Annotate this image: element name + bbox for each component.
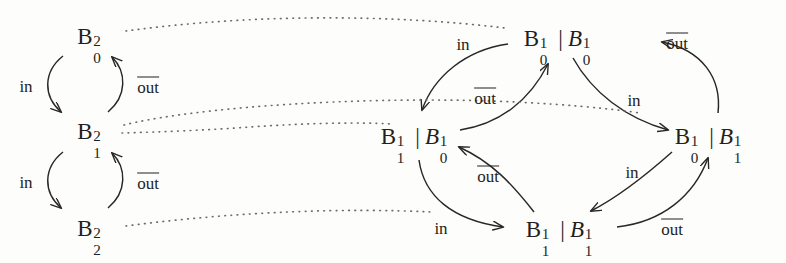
edge-label-top-right-in: in <box>627 92 640 109</box>
node-b12[interactable]: B21 <box>77 120 107 143</box>
connector-b12-right <box>124 100 640 125</box>
edge-label-out-text: out <box>137 173 159 192</box>
connector-b02-top <box>126 18 505 31</box>
connector-b12-left <box>122 123 392 133</box>
node-left-right-base: B <box>425 125 439 148</box>
node-bottom-left-base: B <box>526 218 541 241</box>
node-top[interactable]: B10|B10 <box>524 27 597 50</box>
node-b02-subscript: 0 <box>93 49 101 64</box>
node-left-separator: | <box>415 125 420 148</box>
node-b12-base: B <box>77 120 92 143</box>
node-right-left-superscript: 1 <box>691 133 699 148</box>
node-right-left-base: B <box>675 125 690 148</box>
node-bottom-separator: | <box>560 218 565 241</box>
node-right-right-superscript: 1 <box>734 133 742 148</box>
edge-label-out-text: out <box>137 77 159 96</box>
node-left-right-superscript: 1 <box>440 133 448 148</box>
edge-label-b22-b12-out: out <box>137 173 159 192</box>
edge-b12-b02-out <box>108 57 123 112</box>
edge-b02-b12-in <box>48 56 63 112</box>
edge-label-right-bottom-in: in <box>625 164 638 181</box>
connector-b22-bottom <box>126 210 430 226</box>
edge-right-bottom-in <box>591 152 672 211</box>
node-bottom-left-superscript: 1 <box>542 226 550 241</box>
node-bottom-left-subscript: 1 <box>542 242 550 257</box>
node-top-right-subscript: 0 <box>583 51 591 66</box>
node-b12-subscript: 1 <box>93 144 101 159</box>
edge-label-in-text: in <box>625 163 638 182</box>
edge-label-in-text: in <box>627 91 640 110</box>
edge-label-out-text: out <box>666 33 688 52</box>
edge-label-in-text: in <box>19 173 32 192</box>
node-right-right-subscript: 1 <box>734 149 742 164</box>
edge-right-top-out <box>662 42 719 113</box>
edge-top-right-in <box>573 58 668 130</box>
node-bottom[interactable]: B11|B11 <box>526 218 599 241</box>
edge-label-right-top-out: out <box>666 33 688 52</box>
node-left-left-superscript: 1 <box>397 133 405 148</box>
node-b02[interactable]: B20 <box>77 25 107 48</box>
node-top-right-base: B <box>568 27 582 50</box>
node-left-left-subscript: 1 <box>397 149 405 164</box>
node-left-right-subscript: 0 <box>440 149 448 164</box>
edge-label-left-top-out: out <box>474 88 496 107</box>
node-b12-superscript: 2 <box>93 128 101 143</box>
node-right-separator: | <box>709 125 714 148</box>
node-left-left-base: B <box>381 125 396 148</box>
node-right-left-subscript: 0 <box>691 149 699 164</box>
edge-label-in-text: in <box>19 77 32 96</box>
edge-b22-b12-out <box>108 153 123 208</box>
edge-label-out-text: out <box>477 166 499 185</box>
node-top-left-subscript: 0 <box>540 51 548 66</box>
edge-label-top-left-in: in <box>456 36 469 53</box>
node-right[interactable]: B10|B11 <box>675 125 748 148</box>
node-b02-base: B <box>77 25 92 48</box>
edge-label-b12-b02-out: out <box>137 77 159 96</box>
node-b22-subscript: 2 <box>93 241 101 256</box>
edge-label-left-bottom-in: in <box>434 220 447 237</box>
edge-b12-b22-in <box>48 152 63 208</box>
node-top-separator: | <box>558 27 563 50</box>
node-b22[interactable]: B22 <box>77 217 107 240</box>
edge-label-bottom-right-out: out <box>661 219 683 238</box>
edge-label-in-text: in <box>434 219 447 238</box>
node-top-left-superscript: 1 <box>540 35 548 50</box>
bisimulation-diagram-figure: B1^2 : curve bulging left --> B0^2 : cur… <box>0 0 786 263</box>
node-bottom-right-superscript: 1 <box>585 226 593 241</box>
node-bottom-right-subscript: 1 <box>585 242 593 257</box>
edge-label-b12-b22-in: in <box>19 174 32 191</box>
node-top-right-superscript: 1 <box>583 35 591 50</box>
edge-label-b02-b12-in: in <box>19 78 32 95</box>
node-top-left-base: B <box>524 27 539 50</box>
edge-label-out-text: out <box>474 88 496 107</box>
node-right-right-base: B <box>719 125 733 148</box>
node-b22-superscript: 2 <box>93 225 101 240</box>
node-b22-base: B <box>77 217 92 240</box>
edge-label-in-text: in <box>456 35 469 54</box>
node-bottom-right-base: B <box>570 218 584 241</box>
edge-label-out-text: out <box>661 219 683 238</box>
node-b02-superscript: 2 <box>93 33 101 48</box>
node-left[interactable]: B11|B10 <box>381 125 454 148</box>
edge-label-bottom-left-out: out <box>477 166 499 185</box>
